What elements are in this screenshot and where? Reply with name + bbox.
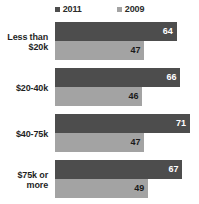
bar-group: Less than $20k 64 47 — [0, 19, 199, 65]
category-label: $20-40k — [0, 65, 51, 111]
bar-2011[interactable]: 64 — [55, 22, 177, 41]
bar-pair: 66 46 — [55, 68, 199, 108]
bar-2011[interactable]: 66 — [55, 68, 180, 87]
chart-plot-area: Less than $20k 64 47 $20-40k 66 — [0, 19, 199, 204]
bar-value-label: 47 — [130, 138, 140, 147]
legend-swatch-2011 — [55, 7, 60, 12]
legend-item-2011[interactable]: 2011 — [55, 5, 82, 14]
bar-2009[interactable]: 47 — [55, 133, 144, 152]
category-label-line1: $20-40k — [16, 83, 48, 94]
legend-label-2011: 2011 — [63, 5, 82, 14]
bar-group: $75k or more 67 49 — [0, 157, 199, 203]
bar-2011[interactable]: 71 — [55, 114, 190, 133]
chart-legend: 2011 2009 — [0, 2, 199, 17]
bar-2009[interactable]: 46 — [55, 87, 142, 106]
bar-pair: 67 49 — [55, 160, 199, 200]
bar-value-label: 64 — [163, 27, 173, 36]
bar-value-label: 46 — [129, 92, 139, 101]
category-label-line1: $40-75k — [16, 129, 48, 140]
legend-item-2009[interactable]: 2009 — [117, 5, 145, 14]
bar-group: $20-40k 66 46 — [0, 65, 199, 111]
category-label-line2: more — [27, 180, 48, 191]
bar-value-label: 67 — [168, 165, 178, 174]
legend-swatch-2009 — [117, 7, 122, 12]
bar-2009[interactable]: 47 — [55, 41, 144, 60]
category-label: $75k or more — [0, 157, 51, 203]
category-label: Less than $20k — [0, 19, 51, 65]
category-label-line1: Less than — [7, 32, 48, 43]
category-label-line1: $75k or — [18, 170, 48, 181]
bar-value-label: 71 — [176, 119, 186, 128]
category-label: $40-75k — [0, 111, 51, 157]
grouped-bar-chart: 2011 2009 Less than $20k 64 47 — [0, 0, 199, 204]
bar-value-label: 49 — [134, 184, 144, 193]
bar-2009[interactable]: 49 — [55, 179, 148, 198]
bar-pair: 64 47 — [55, 22, 199, 62]
legend-label-2009: 2009 — [125, 5, 145, 14]
bar-pair: 71 47 — [55, 114, 199, 154]
bar-2011[interactable]: 67 — [55, 160, 182, 179]
bar-value-label: 47 — [130, 46, 140, 55]
category-label-line2: $20k — [29, 42, 48, 53]
bar-value-label: 66 — [167, 73, 177, 82]
bar-group: $40-75k 71 47 — [0, 111, 199, 157]
